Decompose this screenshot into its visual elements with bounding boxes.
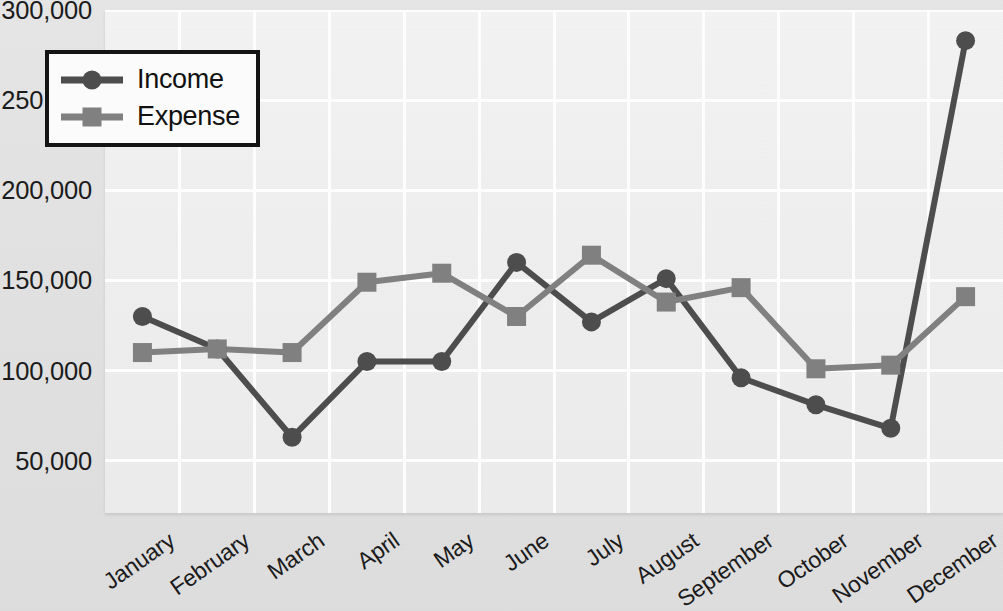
data-point-income[interactable]: [432, 352, 451, 371]
y-tick-label: 50,000: [15, 446, 92, 475]
data-point-expense[interactable]: [283, 343, 302, 362]
legend-marker-income: [83, 70, 102, 89]
data-point-expense[interactable]: [432, 264, 451, 283]
circle-marker-icon: [61, 69, 123, 91]
data-point-income[interactable]: [357, 352, 376, 371]
data-point-income[interactable]: [657, 269, 676, 288]
legend: Income Expense: [45, 50, 260, 147]
data-point-income[interactable]: [806, 395, 825, 414]
data-point-expense[interactable]: [956, 287, 975, 306]
data-point-expense[interactable]: [133, 343, 152, 362]
data-point-income[interactable]: [283, 428, 302, 447]
y-tick-label: 100,000: [1, 356, 92, 385]
legend-label-income: Income: [137, 64, 224, 95]
legend-item-income[interactable]: Income: [61, 61, 240, 98]
data-point-expense[interactable]: [881, 356, 900, 375]
data-point-expense[interactable]: [507, 307, 526, 326]
data-point-expense[interactable]: [208, 339, 227, 358]
series-line-expense: [142, 255, 965, 369]
y-tick-label: 150,000: [1, 266, 92, 295]
data-point-expense[interactable]: [357, 273, 376, 292]
data-point-income[interactable]: [732, 368, 751, 387]
y-tick-label: 200,000: [1, 176, 92, 205]
data-point-expense[interactable]: [806, 359, 825, 378]
legend-marker-expense: [83, 107, 102, 126]
data-point-income[interactable]: [881, 419, 900, 438]
data-point-expense[interactable]: [582, 246, 601, 265]
data-point-expense[interactable]: [732, 278, 751, 297]
legend-label-expense: Expense: [137, 101, 240, 132]
data-point-expense[interactable]: [657, 293, 676, 312]
line-chart: 300,000250,000200,000150,000100,00050,00…: [0, 0, 1003, 611]
data-point-income[interactable]: [956, 31, 975, 50]
legend-item-expense[interactable]: Expense: [61, 98, 240, 135]
data-point-income[interactable]: [582, 312, 601, 331]
data-point-income[interactable]: [507, 253, 526, 272]
x-axis: JanuaryFebruaryMarchAprilMayJuneJulyAugu…: [0, 513, 1003, 611]
series-line-income: [142, 41, 965, 438]
square-marker-icon: [61, 106, 123, 128]
data-point-income[interactable]: [133, 307, 152, 326]
y-tick-label: 300,000: [1, 0, 92, 25]
